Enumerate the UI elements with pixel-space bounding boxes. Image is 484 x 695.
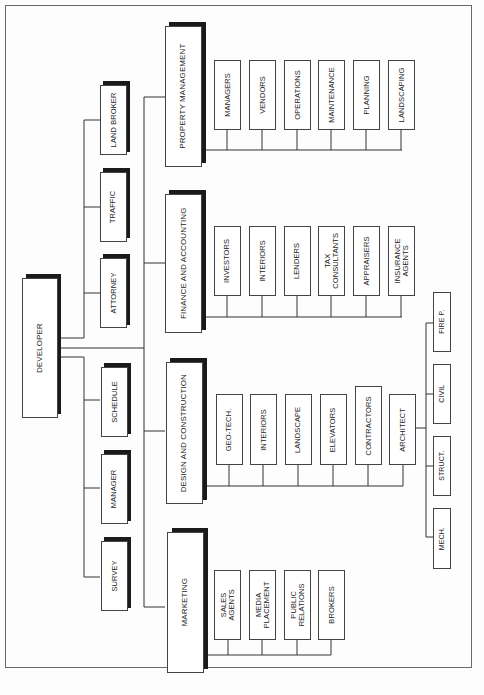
advisor-survey[interactable]: SURVEY: [101, 541, 128, 611]
unit-lenders[interactable]: LENDERS: [284, 226, 311, 296]
advisor-manager[interactable]: MANAGER: [101, 454, 128, 524]
advisor-land-broker[interactable]: LAND BROKER: [100, 85, 127, 155]
subunit-mechanical[interactable]: MECH.: [433, 508, 451, 569]
unit-label: ELEVATORS: [330, 407, 338, 452]
advisor-attorney[interactable]: ATTORNEY: [100, 258, 127, 328]
unit-interiors[interactable]: INTERIORS: [249, 226, 276, 296]
unit-operations[interactable]: OPERATIONS: [284, 60, 311, 130]
subunit-label: MECH.: [438, 527, 445, 550]
unit-interiors[interactable]: INTERIORS: [250, 394, 277, 465]
advisor-label: ATTORNEY: [110, 273, 118, 314]
unit-label: PLANNING: [363, 75, 371, 114]
advisor-label: LAND BROKER: [110, 93, 118, 148]
unit-architect[interactable]: ARCHITECT: [389, 394, 416, 465]
unit-label: BROKERS: [328, 586, 336, 623]
subunit-fire-protection[interactable]: FIRE P.: [433, 292, 451, 352]
unit-label: MAINTENANCE: [328, 67, 336, 123]
unit-managers[interactable]: MANAGERS: [214, 60, 241, 130]
developer-label: DEVELOPER: [36, 323, 44, 373]
advisor-schedule[interactable]: SCHEDULE: [101, 367, 128, 437]
advisor-label: SURVEY: [111, 560, 119, 591]
unit-investors[interactable]: INVESTORS: [214, 226, 241, 296]
dept-label: DESIGN AND CONSTRUCTION: [180, 374, 188, 492]
unit-brokers[interactable]: BROKERS: [318, 570, 345, 640]
unit-elevators[interactable]: ELEVATORS: [320, 394, 347, 465]
unit-insurance-agents[interactable]: INSURANCE AGENTS: [388, 226, 415, 296]
unit-geo-tech[interactable]: GEO-TECH.: [216, 394, 243, 465]
unit-appraisers[interactable]: APPRAISERS: [353, 226, 380, 296]
unit-label: GEO-TECH.: [226, 408, 234, 451]
org-chart-canvas: DEVELOPER LAND BROKER TRAFFIC ATTORNEY S…: [0, 0, 484, 695]
dept-label: MARKETING: [181, 578, 189, 626]
dept-design-and-construction[interactable]: DESIGN AND CONSTRUCTION: [166, 362, 203, 504]
unit-label: OPERATIONS: [294, 70, 302, 120]
unit-label: CONTRACTORS: [365, 396, 373, 455]
unit-sales-agents[interactable]: SALES AGENTS: [214, 570, 241, 640]
dept-property-management[interactable]: PROPERTY MANAGEMENT: [165, 26, 202, 167]
unit-label: ARCHITECT: [399, 408, 407, 452]
dept-finance-and-accounting[interactable]: FINANCE AND ACCOUNTING: [165, 194, 202, 333]
subunit-label: FIRE P.: [438, 310, 445, 334]
advisor-label: MANAGER: [111, 470, 119, 509]
unit-label: SALES AGENTS: [220, 589, 236, 620]
developer-box[interactable]: DEVELOPER: [22, 278, 58, 418]
unit-label: INVESTORS: [224, 239, 232, 283]
subunit-civil[interactable]: CIVIL: [433, 364, 451, 424]
advisor-label: SCHEDULE: [111, 381, 119, 423]
unit-label: LANDSCAPING: [398, 68, 406, 123]
subunit-structural[interactable]: STRUCT.: [433, 436, 451, 496]
unit-landscaping[interactable]: LANDSCAPING: [388, 60, 415, 130]
advisor-traffic[interactable]: TRAFFIC: [100, 172, 127, 242]
subunit-label: CIVIL: [438, 385, 445, 403]
unit-label: TAX CONSULTANTS: [324, 233, 340, 289]
unit-label: INTERIORS: [260, 409, 268, 451]
unit-label: MEDIA PLACEMENT: [255, 582, 271, 629]
unit-label: VENDORS: [259, 76, 267, 114]
unit-vendors[interactable]: VENDORS: [249, 60, 276, 130]
dept-label: FINANCE AND ACCOUNTING: [179, 208, 187, 320]
unit-label: INTERIORS: [259, 240, 267, 282]
unit-public-relations[interactable]: PUBLIC RELATIONS: [284, 570, 311, 640]
unit-media-placement[interactable]: MEDIA PLACEMENT: [249, 570, 276, 640]
unit-contractors[interactable]: CONTRACTORS: [355, 386, 382, 465]
unit-tax-consultants[interactable]: TAX CONSULTANTS: [318, 226, 345, 296]
unit-label: INSURANCE AGENTS: [394, 238, 410, 283]
subunit-label: STRUCT.: [438, 451, 445, 481]
dept-label: PROPERTY MANAGEMENT: [179, 44, 187, 149]
unit-maintenance[interactable]: MAINTENANCE: [318, 60, 345, 130]
advisor-label: TRAFFIC: [110, 191, 118, 223]
unit-label: APPRAISERS: [363, 237, 371, 286]
unit-planning[interactable]: PLANNING: [353, 60, 380, 130]
unit-landscape[interactable]: LANDSCAPE: [285, 394, 312, 465]
dept-marketing[interactable]: MARKETING: [167, 532, 204, 673]
unit-label: LENDERS: [294, 243, 302, 279]
unit-label: MANAGERS: [224, 73, 232, 117]
unit-label: LANDSCAPE: [295, 406, 303, 452]
unit-label: PUBLIC RELATIONS: [290, 584, 306, 627]
